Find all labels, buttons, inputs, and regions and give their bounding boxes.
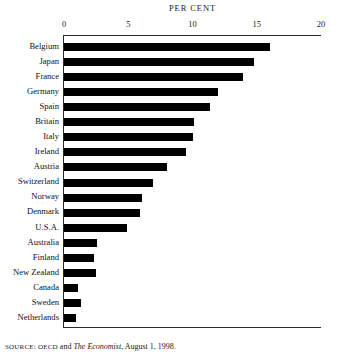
category-label-finland: Finland (0, 252, 59, 262)
category-label-austria: Austria (0, 161, 59, 171)
x-tick-0: 0 (49, 19, 79, 29)
bar-italy (64, 133, 193, 141)
category-label-britain: Britain (0, 116, 59, 126)
bar-u-s-a (64, 224, 127, 232)
category-label-australia: Australia (0, 237, 59, 247)
category-label-italy: Italy (0, 131, 59, 141)
category-label-norway: Norway (0, 191, 59, 201)
bar-ireland (64, 148, 186, 156)
category-label-switzerland: Switzerland (0, 176, 59, 186)
bar-row (63, 101, 321, 115)
category-label-japan: Japan (0, 56, 59, 66)
bar-row (63, 206, 321, 220)
source-conjunction: and (60, 342, 72, 351)
bar-row (63, 251, 321, 265)
bar-germany (64, 88, 218, 96)
bar-austria (64, 163, 167, 171)
bar-australia (64, 239, 97, 247)
category-label-netherlands: Netherlands (0, 312, 59, 322)
bar-norway (64, 194, 142, 202)
bar-sweden (64, 299, 81, 307)
x-tick-5: 5 (113, 19, 143, 29)
bar-switzerland (64, 179, 153, 187)
source-prefix: SOURCE: (5, 343, 36, 351)
category-label-spain: Spain (0, 101, 59, 111)
bar-row (63, 71, 321, 85)
bar-row (63, 296, 321, 310)
category-label-germany: Germany (0, 86, 59, 96)
bar-belgium (64, 43, 270, 51)
bar-row (63, 176, 321, 190)
bar-row (63, 56, 321, 70)
chart-axis-title: PER CENT (64, 3, 321, 13)
bar-row (63, 311, 321, 325)
x-axis-tick-labels: 05101520 (0, 19, 341, 31)
category-label-france: France (0, 71, 59, 81)
category-label-new-zealand: New Zealand (0, 267, 59, 277)
bar-new-zealand (64, 269, 96, 277)
bar-japan (64, 58, 254, 66)
category-labels: BelgiumJapanFranceGermanySpainBritainIta… (0, 35, 61, 327)
category-label-u-s-a: U.S.A. (0, 222, 59, 232)
x-tick-15: 15 (242, 19, 272, 29)
source-date: , August 1, 1998. (121, 342, 176, 351)
source-org: OECD (38, 343, 58, 351)
bar-row (63, 161, 321, 175)
bar-row (63, 146, 321, 160)
bar-row (63, 191, 321, 205)
plot-area (63, 35, 321, 327)
x-tick-20: 20 (306, 19, 336, 29)
category-label-canada: Canada (0, 282, 59, 292)
category-label-denmark: Denmark (0, 206, 59, 216)
category-label-belgium: Belgium (0, 41, 59, 51)
category-label-ireland: Ireland (0, 146, 59, 156)
bar-denmark (64, 209, 140, 217)
bar-row (63, 221, 321, 235)
axis-line-bottom (63, 327, 321, 328)
x-tick-10: 10 (178, 19, 208, 29)
chart-figure: PER CENT 05101520 BelgiumJapanFranceGerm… (0, 0, 341, 364)
bar-row (63, 131, 321, 145)
bar-britain (64, 118, 194, 126)
bar-row (63, 236, 321, 250)
bar-row (63, 116, 321, 130)
bar-spain (64, 103, 210, 111)
bar-row (63, 281, 321, 295)
source-publication: The Economist (73, 342, 121, 351)
bar-row (63, 266, 321, 280)
bar-row (63, 41, 321, 55)
bar-netherlands (64, 314, 76, 322)
bar-row (63, 86, 321, 100)
bar-canada (64, 284, 78, 292)
category-label-sweden: Sweden (0, 297, 59, 307)
source-note: SOURCE: OECD and The Economist, August 1… (5, 342, 176, 351)
bar-finland (64, 254, 94, 262)
bar-france (64, 73, 243, 81)
